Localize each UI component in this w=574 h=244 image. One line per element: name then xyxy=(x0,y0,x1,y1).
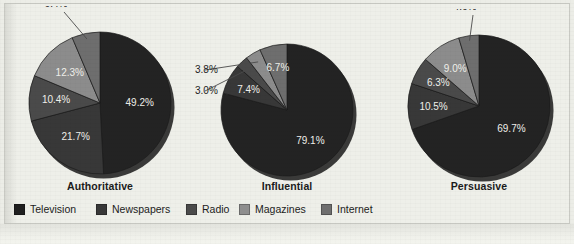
pie-title-influential: Influential xyxy=(227,180,347,192)
legend-item-television[interactable]: Television xyxy=(14,203,76,215)
legend-label: Television xyxy=(30,203,76,215)
legend-item-radio[interactable]: Radio xyxy=(186,203,229,215)
slice-value-radio: 10.4% xyxy=(42,94,70,105)
legend-label: Newspapers xyxy=(112,203,170,215)
legend-item-magazines[interactable]: Magazines xyxy=(239,203,306,215)
legend-label: Radio xyxy=(202,203,229,215)
slice-value-internet: 4.6% xyxy=(454,9,477,12)
pie-title-authoritative: Authoritative xyxy=(40,180,160,192)
legend-swatch-newspapers-icon xyxy=(96,204,107,215)
figure-root: 49.2%21.7%10.4%12.3%6.4%Authoritative79.… xyxy=(0,0,574,244)
slice-value-television: 49.2% xyxy=(126,97,154,108)
slice-value-television: 69.7% xyxy=(497,123,525,134)
pie-svg: 49.2%21.7%10.4%12.3%6.4% xyxy=(3,6,197,200)
slice-value-internet: 6.4% xyxy=(45,6,68,9)
bottom-edge-shading xyxy=(0,224,574,244)
slice-value-magazines: 3.8% xyxy=(195,64,218,75)
pie-chart-authoritative: 49.2%21.7%10.4%12.3%6.4% xyxy=(3,6,197,200)
slice-value-radio: 6.3% xyxy=(427,77,450,88)
pie-chart-persuasive: 69.7%10.5%6.3%9.0%4.6% xyxy=(382,9,574,203)
legend-swatch-internet-icon xyxy=(321,204,332,215)
slice-value-newspapers: 21.7% xyxy=(62,131,90,142)
legend-item-newspapers[interactable]: Newspapers xyxy=(96,203,170,215)
slice-value-internet: 6.7% xyxy=(267,62,290,73)
slice-value-radio: 3.0% xyxy=(195,85,218,96)
slice-value-magazines: 9.0% xyxy=(444,63,467,74)
pie-chart-influential: 79.1%7.4%3.0%3.8%6.7% xyxy=(195,18,379,202)
legend-item-internet[interactable]: Internet xyxy=(321,203,373,215)
legend-swatch-television-icon xyxy=(14,204,25,215)
legend-swatch-magazines-icon xyxy=(239,204,250,215)
pie-svg: 69.7%10.5%6.3%9.0%4.6% xyxy=(382,9,574,203)
pie-svg: 79.1%7.4%3.0%3.8%6.7% xyxy=(195,18,379,202)
legend-label: Magazines xyxy=(255,203,306,215)
slice-value-magazines: 12.3% xyxy=(56,67,84,78)
slice-value-newspapers: 10.5% xyxy=(419,101,447,112)
slice-value-newspapers: 7.4% xyxy=(237,84,260,95)
pie-title-persuasive: Persuasive xyxy=(419,180,539,192)
legend: TelevisionNewspapersRadioMagazinesIntern… xyxy=(14,203,414,217)
legend-label: Internet xyxy=(337,203,373,215)
slice-value-television: 79.1% xyxy=(296,135,324,146)
legend-swatch-radio-icon xyxy=(186,204,197,215)
leader-line-internet xyxy=(64,12,87,39)
